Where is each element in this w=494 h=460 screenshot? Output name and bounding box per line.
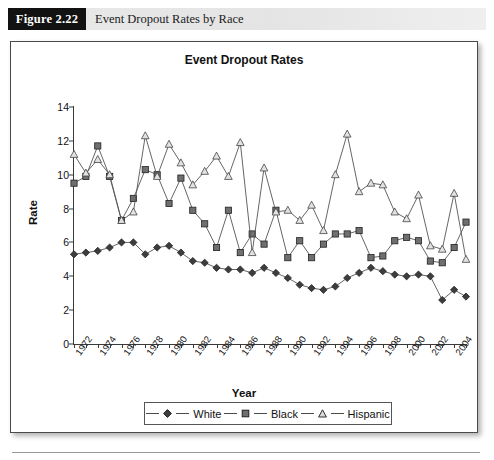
data-point-white <box>462 293 469 300</box>
data-point-hispanic <box>391 208 399 215</box>
data-point-white <box>355 269 362 276</box>
x-tick-mark <box>347 344 348 348</box>
data-point-black <box>451 244 457 250</box>
data-point-hispanic <box>225 172 233 179</box>
data-point-black <box>380 253 386 259</box>
y-tick-label: 2 <box>63 304 69 316</box>
x-tick-mark <box>181 344 182 348</box>
data-point-hispanic <box>355 188 363 195</box>
figure-number-tag: Figure 2.22 <box>8 8 86 30</box>
y-tick-mark <box>69 242 74 243</box>
data-point-hispanic <box>177 159 185 166</box>
legend-line-white-2 <box>176 413 189 414</box>
data-point-black <box>202 221 208 227</box>
x-tick-mark <box>371 344 372 348</box>
x-tick-mark <box>300 344 301 348</box>
data-point-white <box>391 271 398 278</box>
data-point-white <box>106 244 113 251</box>
data-point-black <box>285 255 291 261</box>
legend-item-black[interactable]: Black <box>224 408 298 420</box>
y-tick-label: 6 <box>63 236 69 248</box>
data-point-black <box>297 238 303 244</box>
data-point-white <box>201 259 208 266</box>
data-point-white <box>70 251 77 258</box>
data-point-hispanic <box>213 152 221 159</box>
data-point-hispanic <box>248 249 256 256</box>
x-tick-mark <box>466 344 467 348</box>
legend-label-white: White <box>193 408 221 420</box>
y-tick-mark <box>69 310 74 311</box>
legend-line-black-2 <box>254 413 267 414</box>
data-point-hispanic <box>320 227 328 234</box>
data-point-hispanic <box>260 164 268 171</box>
data-point-white <box>427 273 434 280</box>
data-point-black <box>142 167 148 173</box>
data-point-white <box>118 239 125 246</box>
data-point-hispanic <box>165 140 173 147</box>
x-tick-mark <box>110 344 111 348</box>
data-point-black <box>213 244 219 250</box>
data-point-hispanic <box>415 191 423 198</box>
data-point-hispanic <box>237 139 245 146</box>
data-point-white <box>284 274 291 281</box>
data-point-black <box>463 219 469 225</box>
data-point-white <box>237 266 244 273</box>
data-point-black <box>392 238 398 244</box>
x-tick-mark <box>205 344 206 348</box>
data-point-black <box>95 143 101 149</box>
x-tick-mark <box>442 344 443 348</box>
x-tick-mark <box>157 344 158 348</box>
data-point-white <box>260 264 267 271</box>
data-point-black <box>166 200 172 206</box>
data-point-black <box>190 207 196 213</box>
data-point-black <box>332 231 338 237</box>
data-point-black <box>320 241 326 247</box>
figure-caption: Event Dropout Rates by Race <box>95 8 244 30</box>
data-point-hispanic <box>427 242 435 249</box>
data-point-black <box>308 255 314 261</box>
square-icon <box>241 409 250 418</box>
data-point-hispanic <box>332 171 340 178</box>
legend-line-white <box>146 413 159 414</box>
x-tick-mark <box>276 344 277 348</box>
x-tick-mark <box>418 344 419 348</box>
data-point-black <box>178 175 184 181</box>
chart-legend: White Black Hispanic <box>144 402 392 425</box>
legend-line-hispanic <box>301 413 314 414</box>
data-point-black <box>404 234 410 240</box>
plot-area: 02468101214 1972197419761978198019821984… <box>74 107 466 344</box>
legend-label-hispanic: Hispanic <box>348 408 390 420</box>
chart-panel: Event Dropout Rates Rate Year 0246810121… <box>10 41 478 433</box>
data-point-white <box>332 283 339 290</box>
figure-container: Figure 2.22 Event Dropout Rates by Race … <box>0 0 494 460</box>
data-point-hispanic <box>450 189 458 196</box>
data-point-white <box>225 266 232 273</box>
y-tick-mark <box>69 107 74 108</box>
data-point-hispanic <box>130 208 138 215</box>
data-point-black <box>237 249 243 255</box>
data-point-white <box>189 257 196 264</box>
data-point-white <box>344 274 351 281</box>
triangle-icon <box>318 409 327 418</box>
diamond-icon <box>163 409 172 418</box>
x-tick-mark <box>133 344 134 348</box>
y-tick-label: 8 <box>63 203 69 215</box>
data-point-white <box>379 268 386 275</box>
x-tick-mark <box>228 344 229 348</box>
data-point-hispanic <box>70 150 78 157</box>
x-tick-mark <box>395 344 396 348</box>
data-point-hispanic <box>141 132 149 139</box>
legend-label-black: Black <box>271 408 298 420</box>
y-tick-label: 4 <box>63 270 69 282</box>
data-point-black <box>439 260 445 266</box>
data-point-hispanic <box>284 206 292 213</box>
data-point-hispanic <box>462 255 470 262</box>
data-point-white <box>272 269 279 276</box>
y-tick-label: 10 <box>57 169 69 181</box>
data-point-white <box>296 281 303 288</box>
legend-line-black <box>224 413 237 414</box>
legend-item-hispanic[interactable]: Hispanic <box>301 408 390 420</box>
data-point-white <box>403 273 410 280</box>
legend-item-white[interactable]: White <box>146 408 221 420</box>
data-point-white <box>367 264 374 271</box>
